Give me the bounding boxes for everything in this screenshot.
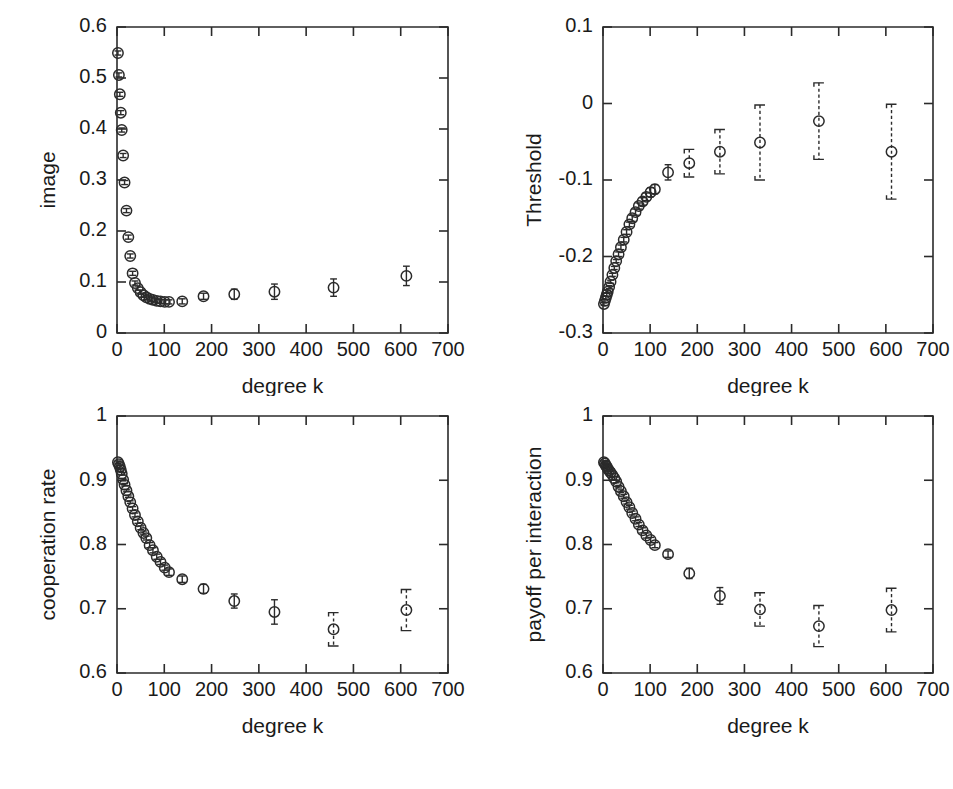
plot-panel-top-right: 0100200300400500600700-0.3-0.2-0.100.1de… bbox=[478, 0, 953, 396]
x-tick-label: 400 bbox=[775, 678, 808, 700]
y-tick-label: 0.7 bbox=[79, 596, 107, 618]
x-tick-label: 400 bbox=[289, 338, 322, 360]
x-tick-label: 500 bbox=[337, 678, 370, 700]
y-tick-label: 0.8 bbox=[79, 532, 107, 554]
plot-panel-bottom-left: 01002003004005006007000.60.70.80.91degre… bbox=[0, 396, 478, 789]
x-tick-label: 600 bbox=[869, 678, 902, 700]
y-tick-label: 0 bbox=[582, 91, 593, 113]
x-axis-title: degree k bbox=[242, 714, 324, 737]
y-tick-label: 1 bbox=[582, 403, 593, 425]
y-tick-label: 0.6 bbox=[79, 14, 107, 36]
x-axis-title: degree k bbox=[727, 714, 809, 737]
x-tick-label: 100 bbox=[148, 678, 181, 700]
x-tick-label: 100 bbox=[148, 338, 181, 360]
x-tick-label: 300 bbox=[728, 338, 761, 360]
y-axis-title: payoff per interaction bbox=[522, 447, 545, 643]
x-tick-label: 500 bbox=[822, 678, 855, 700]
x-tick-label: 400 bbox=[775, 338, 808, 360]
x-tick-label: 700 bbox=[916, 678, 949, 700]
y-tick-label: 0.9 bbox=[565, 468, 593, 490]
x-tick-label: 300 bbox=[242, 338, 275, 360]
x-tick-label: 500 bbox=[337, 338, 370, 360]
figure-canvas: 010020030040050060070000.10.20.30.40.50.… bbox=[0, 0, 953, 789]
x-tick-label: 0 bbox=[597, 338, 608, 360]
y-tick-label: 0.6 bbox=[565, 660, 593, 682]
x-tick-label: 0 bbox=[597, 678, 608, 700]
data-series bbox=[599, 83, 897, 309]
plot-panel-bottom-right: 01002003004005006007000.60.70.80.91degre… bbox=[478, 396, 953, 789]
x-axis-title: degree k bbox=[727, 374, 809, 396]
y-tick-label: 0.1 bbox=[79, 269, 107, 291]
y-tick-label: 0.1 bbox=[565, 14, 593, 36]
x-tick-label: 100 bbox=[633, 678, 666, 700]
y-tick-label: -0.3 bbox=[559, 320, 593, 342]
y-axis-title: image bbox=[36, 151, 59, 208]
data-series bbox=[113, 48, 412, 307]
x-tick-label: 200 bbox=[195, 678, 228, 700]
plot-panel-top-left: 010020030040050060070000.10.20.30.40.50.… bbox=[0, 0, 478, 396]
y-tick-label: -0.1 bbox=[559, 167, 593, 189]
data-series bbox=[599, 457, 897, 647]
y-tick-label: 0.4 bbox=[79, 116, 107, 138]
plot-frame bbox=[117, 27, 448, 333]
data-series bbox=[113, 457, 412, 646]
x-tick-label: 600 bbox=[869, 338, 902, 360]
x-axis-title: degree k bbox=[242, 374, 324, 396]
x-tick-label: 400 bbox=[289, 678, 322, 700]
x-tick-label: 700 bbox=[431, 338, 464, 360]
plot-frame bbox=[603, 27, 933, 333]
y-axis-title: Threshold bbox=[522, 133, 545, 226]
x-tick-label: 200 bbox=[195, 338, 228, 360]
x-tick-label: 200 bbox=[681, 678, 714, 700]
y-tick-label: 0.2 bbox=[79, 218, 107, 240]
y-tick-label: 0.7 bbox=[565, 596, 593, 618]
x-tick-label: 600 bbox=[384, 338, 417, 360]
x-tick-label: 500 bbox=[822, 338, 855, 360]
x-tick-label: 700 bbox=[431, 678, 464, 700]
x-tick-label: 200 bbox=[681, 338, 714, 360]
x-tick-label: 100 bbox=[633, 338, 666, 360]
y-tick-label: 0.6 bbox=[79, 660, 107, 682]
plot-frame bbox=[117, 416, 448, 673]
y-tick-label: 1 bbox=[96, 403, 107, 425]
x-tick-label: 300 bbox=[242, 678, 275, 700]
y-tick-label: 0.8 bbox=[565, 532, 593, 554]
x-tick-label: 600 bbox=[384, 678, 417, 700]
y-tick-label: 0.3 bbox=[79, 167, 107, 189]
x-tick-label: 0 bbox=[111, 338, 122, 360]
y-tick-label: -0.2 bbox=[559, 244, 593, 266]
error-bar-cap-bottom bbox=[814, 155, 824, 159]
y-tick-label: 0.5 bbox=[79, 65, 107, 87]
x-tick-label: 700 bbox=[916, 338, 949, 360]
y-tick-label: 0.9 bbox=[79, 468, 107, 490]
y-axis-title: cooperation rate bbox=[36, 469, 59, 621]
y-tick-label: 0 bbox=[96, 320, 107, 342]
x-tick-label: 0 bbox=[111, 678, 122, 700]
x-tick-label: 300 bbox=[728, 678, 761, 700]
